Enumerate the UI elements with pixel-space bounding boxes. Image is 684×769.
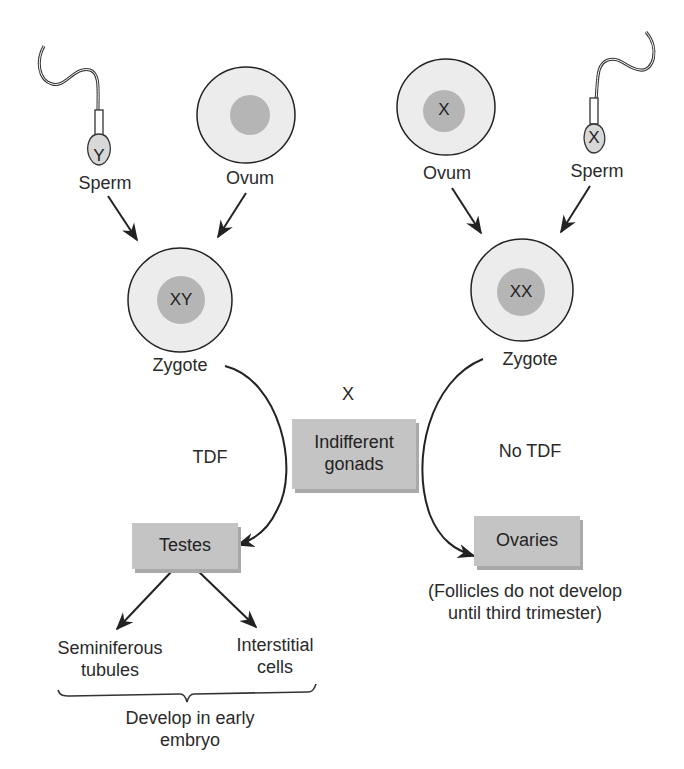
arrow-testes-to-interstitial [196,569,256,627]
gonads-line1: Indifferent [314,432,394,454]
follicles-note: (Follicles do not develop until third tr… [405,581,645,624]
sperm-left-label: Sperm [70,173,140,195]
no-tdf-label: No TDF [490,441,570,463]
zygote-left-chromosomes: XY [161,290,201,310]
sperm-right-label: Sperm [562,161,632,183]
develop-early-note: Develop in early embryo [110,708,270,751]
ovum-left-label: Ovum [215,168,285,190]
ovaries-box: Ovaries [474,516,580,566]
seminiferous-tubules-label: Seminiferous tubules [40,638,180,681]
testes-label: Testes [159,535,211,557]
interstitial-cells-label: Interstitial cells [220,635,330,678]
brace [58,684,316,702]
testes-box: Testes [132,523,238,569]
arrow-ovum-to-zygote-right [452,188,481,233]
center-marker: X [334,384,362,406]
sperm-right-chromosome: X [584,128,604,148]
gonads-line2: gonads [314,454,394,476]
indifferent-gonads-box: Indifferent gonads [292,419,416,489]
zygote-right-label: Zygote [490,349,570,371]
tdf-label: TDF [180,447,240,469]
ovum-right-label: Ovum [412,163,482,185]
arrow-sperm-to-zygote-left [108,196,137,240]
zygote-right-chromosomes: XX [501,282,541,302]
arrow-sperm-to-zygote-right [561,186,590,232]
arrow-ovum-to-zygote-left [218,193,246,237]
zygote-left-label: Zygote [140,355,220,377]
ovum-right-chromosome: X [432,100,456,120]
arrow-testes-to-tubules [117,571,172,629]
ovaries-label: Ovaries [496,530,558,552]
sperm-left-chromosome: Y [89,146,109,166]
ovum-left-icon [197,67,295,163]
